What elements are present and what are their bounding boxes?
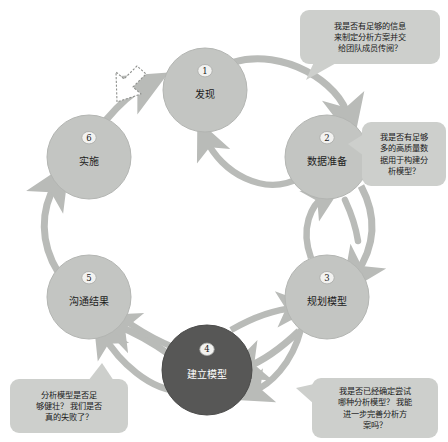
node-number: 2	[324, 133, 329, 143]
node-number: 5	[86, 273, 91, 283]
bubble-line: 给团队成员传阅？	[338, 43, 402, 53]
bubble-line: 我是否已经确定尝试	[339, 386, 411, 396]
bubble-line: 据用于构建分	[380, 155, 428, 165]
node-number: 6	[86, 133, 91, 143]
node-label: 规划模型	[307, 295, 347, 307]
bubble-line: 来制定分析方案并交	[334, 32, 406, 42]
node-number: 1	[202, 66, 207, 76]
bubble-line: 够健壮？ 我们是否	[36, 401, 103, 411]
bubble-line: 进一步完善分析方	[343, 409, 407, 419]
bubble-model-planning: 我是否已经确定尝试哪种分析模型？ 我能进一步完善分析方案吗？	[296, 378, 438, 438]
bubble-line: 哪种分析模型？ 我能	[338, 397, 413, 407]
node-2[interactable]: 2数据准备	[285, 115, 369, 199]
bubble-line: 案吗？	[363, 420, 387, 430]
bubble-line: 分析模型是否足	[41, 390, 97, 400]
node-label: 数据准备	[307, 155, 347, 167]
node-label: 沟通结果	[69, 295, 109, 307]
node-number: 3	[324, 273, 329, 283]
node-1[interactable]: 1发现	[163, 48, 247, 132]
node-label: 实施	[79, 155, 99, 167]
node-label: 建立模型	[187, 368, 227, 380]
node-number: 4	[204, 344, 209, 354]
node-label: 发现	[195, 88, 215, 100]
bubble-line: 我是否有足够的信息	[334, 21, 406, 31]
bubble-line: 我是否有足够	[380, 132, 428, 142]
bubble-line: 真的失败了？	[45, 412, 93, 422]
node-4[interactable]: 4建立模型	[162, 325, 252, 415]
bubble-data-prep: 我是否有足够多的高质量数据用于构建分析模型？	[348, 122, 446, 186]
node-5[interactable]: 5沟通结果	[47, 255, 131, 339]
analytics-lifecycle-diagram: 1发现2数据准备3规划模型4建立模型5沟通结果6实施 我是否有足够的信息来制定分…	[0, 0, 448, 442]
node-6[interactable]: 6实施	[47, 115, 131, 199]
bubble-line: 析模型？	[388, 166, 420, 176]
node-3[interactable]: 3规划模型	[285, 255, 369, 339]
bubble-line: 多的高质量数	[380, 143, 428, 153]
